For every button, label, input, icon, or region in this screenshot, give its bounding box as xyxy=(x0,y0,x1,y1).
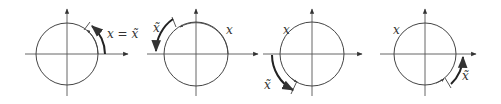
panel-4-reference-label: x̃ xyxy=(462,70,469,82)
panel-4-angle-label: x xyxy=(393,24,400,36)
panel-2-reference-label: x̃ xyxy=(153,22,160,34)
terminal-side-tick xyxy=(445,78,451,88)
panel-3 xyxy=(263,9,362,96)
angle-arc xyxy=(180,23,228,54)
panel-1-angle-label: x = x̃ xyxy=(107,28,138,40)
reference-angle-diagram xyxy=(0,0,501,104)
terminal-side-tick xyxy=(291,81,297,94)
terminal-side-tick xyxy=(84,22,90,30)
panel-2 xyxy=(147,9,258,96)
panel-2-angle-label: x xyxy=(226,24,233,36)
angle-arc xyxy=(287,74,297,82)
panel-3-reference-label: x̃ xyxy=(264,79,271,91)
panel-1 xyxy=(25,9,128,96)
panel-3-angle-label: x xyxy=(283,24,290,36)
angle-arc xyxy=(87,30,98,54)
angle-arc xyxy=(436,79,444,83)
reference-angle-arc xyxy=(272,55,293,90)
reference-angle-arc xyxy=(92,26,105,54)
